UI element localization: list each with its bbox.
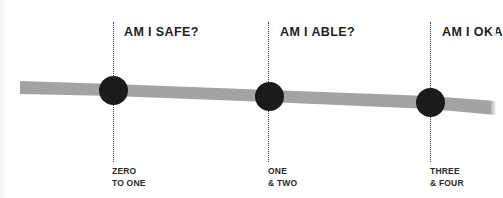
- milestone-node: [255, 82, 284, 111]
- milestone-stage: ZERO TO ONE: [112, 165, 146, 189]
- milestone-question: AM I SAFE?: [124, 25, 199, 39]
- milestone-stage: THREE & FOUR: [430, 165, 464, 189]
- milestone-stage: ONE & TWO: [268, 165, 297, 189]
- stage-line-1: THREE: [430, 165, 464, 177]
- stage-line-2: & TWO: [268, 177, 297, 189]
- milestone-question: AM I ABLE?: [280, 25, 355, 39]
- milestone-node: [99, 76, 128, 105]
- milestone-node: [416, 88, 445, 117]
- stage-line-1: ZERO: [112, 165, 146, 177]
- stage-line-1: ONE: [268, 165, 297, 177]
- stage-line-2: TO ONE: [112, 177, 146, 189]
- right-edge-fade: [490, 0, 496, 198]
- stage-line-2: & FOUR: [430, 177, 464, 189]
